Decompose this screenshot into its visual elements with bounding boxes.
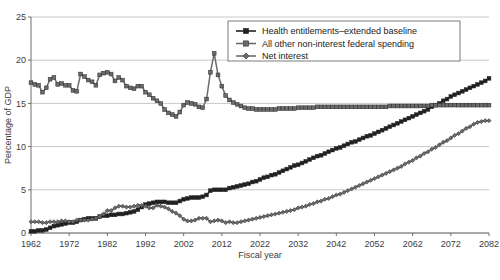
- data-point: [369, 105, 373, 109]
- data-point: [453, 93, 457, 97]
- data-point: [342, 105, 346, 109]
- data-point: [220, 188, 224, 192]
- data-point: [220, 84, 224, 88]
- legend-marker: [243, 41, 248, 46]
- data-point: [445, 97, 449, 101]
- data-point: [29, 81, 33, 85]
- data-point: [254, 108, 258, 112]
- x-tick-label: 1992: [135, 239, 155, 249]
- data-point: [476, 103, 480, 107]
- data-point: [472, 103, 476, 107]
- data-point: [239, 104, 243, 108]
- series-2: [29, 51, 491, 118]
- data-point: [407, 116, 411, 120]
- data-point: [250, 217, 254, 221]
- data-point: [376, 105, 380, 109]
- data-point: [140, 84, 144, 88]
- data-point: [228, 186, 232, 190]
- data-point: [205, 97, 209, 101]
- data-point: [227, 220, 231, 224]
- data-point: [380, 128, 384, 132]
- data-point: [418, 111, 422, 115]
- data-point: [487, 76, 491, 80]
- data-point: [273, 212, 277, 216]
- data-point: [189, 102, 193, 106]
- data-point: [300, 106, 304, 110]
- data-point: [182, 103, 186, 107]
- data-point: [136, 84, 140, 88]
- data-point: [105, 214, 109, 218]
- data-point: [155, 99, 159, 103]
- data-point: [216, 188, 220, 192]
- y-tick-label: 0: [21, 228, 26, 238]
- data-point: [235, 221, 239, 225]
- data-point: [262, 108, 266, 112]
- data-point: [346, 105, 350, 109]
- data-point: [44, 228, 48, 232]
- data-point: [361, 136, 365, 140]
- data-point: [434, 103, 438, 107]
- data-point: [418, 104, 422, 108]
- data-point: [342, 144, 346, 148]
- data-point: [373, 132, 377, 136]
- data-point: [449, 95, 453, 99]
- data-point: [437, 103, 441, 107]
- data-point: [212, 219, 216, 223]
- data-point: [441, 103, 445, 107]
- data-point: [151, 201, 155, 205]
- data-point: [350, 140, 354, 144]
- data-point: [247, 107, 251, 111]
- data-point: [48, 77, 52, 81]
- data-point: [422, 104, 426, 108]
- data-point: [182, 197, 186, 201]
- data-point: [396, 104, 400, 108]
- data-point: [216, 218, 220, 222]
- data-point: [83, 75, 87, 79]
- data-point: [308, 106, 312, 110]
- data-point: [174, 114, 178, 118]
- data-point: [201, 195, 205, 199]
- data-point: [113, 213, 117, 217]
- legend-item: Health entitlements–extended baseline: [236, 26, 417, 36]
- data-point: [296, 106, 300, 110]
- data-point: [300, 205, 304, 209]
- data-point: [289, 107, 293, 111]
- data-point: [273, 108, 277, 112]
- data-point: [365, 105, 369, 109]
- data-point: [334, 146, 338, 150]
- data-point: [258, 108, 262, 112]
- data-point: [243, 219, 247, 223]
- data-point: [178, 110, 182, 114]
- data-point: [189, 196, 193, 200]
- data-point: [167, 201, 171, 205]
- data-point: [323, 152, 327, 156]
- data-point: [121, 212, 125, 216]
- data-point: [37, 220, 41, 224]
- data-point: [396, 121, 400, 125]
- data-point: [262, 176, 266, 180]
- data-point: [113, 79, 117, 83]
- legend-marker: [243, 28, 248, 33]
- data-point: [208, 70, 212, 74]
- data-point: [75, 89, 79, 93]
- data-point: [354, 140, 358, 144]
- data-point: [281, 169, 285, 173]
- data-point: [319, 105, 323, 109]
- y-tick-label: 20: [16, 55, 26, 65]
- y-tick-label: 15: [16, 99, 26, 109]
- data-point: [86, 78, 90, 82]
- data-point: [193, 102, 197, 106]
- data-point: [52, 76, 56, 80]
- data-point: [105, 70, 109, 74]
- x-tick-label: 1982: [97, 239, 117, 249]
- data-point: [170, 201, 174, 205]
- data-point: [273, 172, 277, 176]
- data-point: [407, 104, 411, 108]
- data-point: [269, 213, 273, 217]
- data-point: [258, 178, 262, 182]
- x-tick-label: 2082: [479, 239, 499, 249]
- data-point: [270, 108, 274, 112]
- x-tick-label: 2032: [288, 239, 308, 249]
- data-point: [392, 104, 396, 108]
- data-point: [216, 73, 220, 77]
